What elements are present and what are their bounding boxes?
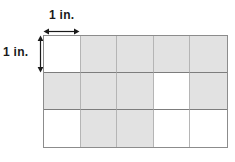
grid-cell-r2-c3: [117, 73, 154, 110]
grid-cell-r3-c2: [81, 110, 118, 147]
grid-cell-r3-c5: [190, 110, 227, 147]
grid-cell-r1-c2: [81, 36, 118, 73]
grid-cell-r1-c3: [117, 36, 154, 73]
grid-cell-r2-c1: [44, 73, 81, 110]
grid-cell-r3-c3: [117, 110, 154, 147]
grid-cell-r1-c4: [154, 36, 191, 73]
grid-cell-r2-c2: [81, 73, 118, 110]
height-dimension-label: 1 in.: [3, 46, 29, 58]
grid-cell-r3-c4: [154, 110, 191, 147]
unit-square-grid-figure: 1 in. 1 in.: [0, 0, 235, 162]
grid-cell-r2-c5: [190, 73, 227, 110]
grid-cell-r2-c4: [154, 73, 191, 110]
grid-cell-r3-c1: [44, 110, 81, 147]
grid-cell-r1-c1: [44, 36, 81, 73]
grid-cell-r1-c5: [190, 36, 227, 73]
width-dimension-label: 1 in.: [49, 9, 75, 21]
partitioned-rectangle: [43, 35, 228, 148]
